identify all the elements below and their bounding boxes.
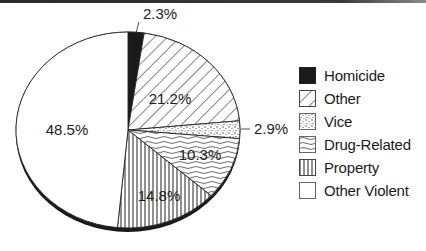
swatch-diagonal-hatch-icon bbox=[299, 90, 316, 107]
leader-homicide bbox=[136, 22, 139, 33]
legend-item-drug-related: Drug-Related bbox=[299, 133, 411, 156]
label-drug: 10.3% bbox=[179, 146, 222, 163]
swatch-wavy-lines-icon bbox=[299, 136, 316, 153]
legend-item-other-violent: Other Violent bbox=[299, 179, 411, 202]
swatch-vertical-lines-icon bbox=[299, 159, 316, 176]
label-other-violent: 48.5% bbox=[46, 121, 89, 138]
legend-item-vice: Vice bbox=[299, 110, 411, 133]
swatch-stipple-icon bbox=[299, 113, 316, 130]
pie-slice-other bbox=[128, 33, 240, 130]
label-homicide: 2.3% bbox=[143, 5, 177, 22]
label-vice: 2.9% bbox=[254, 120, 288, 137]
legend-item-property: Property bbox=[299, 156, 411, 179]
label-property: 14.8% bbox=[138, 187, 181, 204]
swatch-white-icon bbox=[299, 182, 316, 199]
swatch-solid-black-icon bbox=[299, 67, 316, 84]
legend-item-other: Other bbox=[299, 87, 411, 110]
label-other: 21.2% bbox=[149, 90, 192, 107]
legend-item-homicide: Homicide bbox=[299, 64, 411, 87]
legend: Homicide Other Vice Drug-Related Propert… bbox=[299, 64, 411, 202]
